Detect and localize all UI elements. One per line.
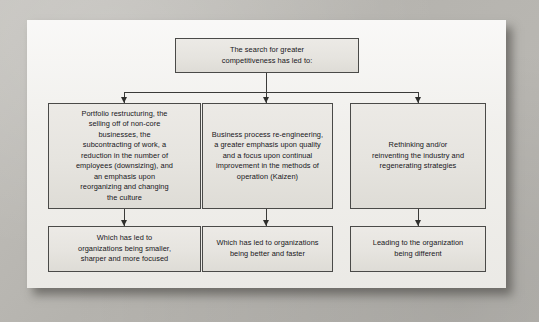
diagram-panel: The search for greater competitiveness h…	[27, 20, 506, 288]
node-organization-being-different: Leading to the organization being differ…	[350, 226, 486, 272]
node-smaller-sharper-focused-label: Which has led to organizations being sma…	[73, 233, 176, 265]
node-root: The search for greater competitiveness h…	[175, 38, 359, 73]
node-portfolio-restructuring: Portfolio restructuring, the selling off…	[48, 103, 201, 209]
node-smaller-sharper-focused: Which has led to organizations being sma…	[48, 226, 201, 272]
connector-root-stem	[266, 73, 267, 93]
arrowhead-icon-middle-outcome	[263, 220, 269, 226]
node-business-process-re-engineering: Business process re-engineering, a great…	[202, 103, 333, 209]
node-portfolio-restructuring-label: Portfolio restructuring, the selling off…	[71, 109, 178, 204]
arrowhead-icon-right-outcome	[415, 220, 421, 226]
arrowhead-icon-middle-branch	[263, 97, 269, 103]
arrowhead-icon-right-branch	[415, 97, 421, 103]
figure-root: The search for greater competitiveness h…	[0, 0, 539, 322]
node-better-and-faster: Which has led to organizations being bet…	[202, 226, 333, 272]
node-root-label: The search for greater competitiveness h…	[217, 45, 318, 66]
node-organization-being-different-label: Leading to the organization being differ…	[368, 238, 469, 259]
connector-distribution-bar	[124, 92, 418, 93]
arrowhead-icon-left-outcome	[121, 220, 127, 226]
node-business-process-re-engineering-label: Business process re-engineering, a great…	[207, 130, 328, 183]
arrowhead-icon-left-branch	[121, 97, 127, 103]
node-rethinking-reinventing: Rethinking and/or reinventing the indust…	[350, 103, 486, 209]
node-rethinking-reinventing-label: Rethinking and/or reinventing the indust…	[367, 140, 469, 172]
node-better-and-faster-label: Which has led to organizations being bet…	[211, 238, 323, 259]
